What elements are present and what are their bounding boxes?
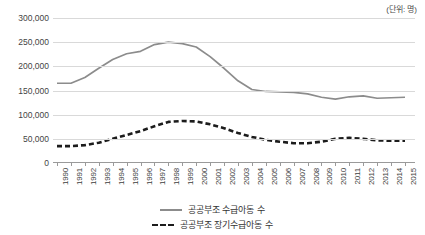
x-axis-labels: 1990199119921993199419951996199719981999… bbox=[53, 168, 415, 196]
x-tick-label: 2012 bbox=[367, 168, 376, 185]
x-tick bbox=[71, 163, 72, 166]
x-tick bbox=[363, 163, 364, 166]
x-tick-label: 1995 bbox=[131, 168, 140, 185]
x-tick-label: 1992 bbox=[89, 168, 98, 185]
y-tick-label: 0 bbox=[44, 158, 49, 168]
x-tick bbox=[224, 163, 225, 166]
x-tick bbox=[141, 163, 142, 166]
x-tick-label: 2009 bbox=[325, 168, 334, 185]
x-tick bbox=[266, 163, 267, 166]
gridline bbox=[53, 66, 415, 67]
x-tick bbox=[154, 163, 155, 166]
chart-container: (단위: 명) 300,000250,000200,000150,000100,… bbox=[0, 0, 425, 235]
x-tick-label: 2005 bbox=[270, 168, 279, 185]
x-tick bbox=[280, 163, 281, 166]
y-tick-label: 150,000 bbox=[18, 86, 49, 96]
x-tick bbox=[127, 163, 128, 166]
x-tick bbox=[391, 163, 392, 166]
x-tick bbox=[113, 163, 114, 166]
unit-annotation: (단위: 명) bbox=[386, 3, 417, 14]
y-tick-label: 50,000 bbox=[23, 134, 49, 144]
legend-item[interactable]: 공공부조 수급아동 수 bbox=[160, 203, 265, 216]
x-tick-label: 1999 bbox=[186, 168, 195, 185]
x-tick-label: 2003 bbox=[242, 168, 251, 185]
x-tick-label: 2001 bbox=[214, 168, 223, 185]
x-tick bbox=[168, 163, 169, 166]
x-tick bbox=[210, 163, 211, 166]
x-tick-label: 1991 bbox=[75, 168, 84, 185]
plot-area bbox=[53, 18, 415, 163]
x-tick bbox=[99, 163, 100, 166]
y-tick-label: 250,000 bbox=[18, 37, 49, 47]
x-axis-ticks bbox=[53, 163, 415, 167]
x-tick bbox=[294, 163, 295, 166]
gridline bbox=[53, 42, 415, 43]
x-tick-label: 1990 bbox=[61, 168, 70, 185]
x-tick-label: 1993 bbox=[103, 168, 112, 185]
x-tick-label: 1996 bbox=[145, 168, 154, 185]
gridline bbox=[53, 115, 415, 116]
x-tick-label: 1997 bbox=[158, 168, 167, 185]
x-tick bbox=[85, 163, 86, 166]
gridline bbox=[53, 91, 415, 92]
x-tick-label: 2004 bbox=[256, 168, 265, 185]
legend-item[interactable]: 공공부조 장기수급아동 수 bbox=[152, 218, 273, 231]
x-tick-label: 2013 bbox=[381, 168, 390, 185]
x-tick-label: 2010 bbox=[339, 168, 348, 185]
legend-label: 공공부조 장기수급아동 수 bbox=[180, 218, 273, 231]
x-tick-label: 1998 bbox=[172, 168, 181, 185]
x-tick-label: 2014 bbox=[395, 168, 404, 185]
x-tick bbox=[57, 163, 58, 166]
x-tick bbox=[196, 163, 197, 166]
x-tick-label: 2015 bbox=[409, 168, 418, 185]
y-tick-label: 200,000 bbox=[18, 61, 49, 71]
x-tick bbox=[308, 163, 309, 166]
x-tick-label: 1994 bbox=[117, 168, 126, 185]
gridline bbox=[53, 139, 415, 140]
x-tick bbox=[252, 163, 253, 166]
legend-swatch-solid bbox=[160, 209, 182, 211]
y-axis-labels: 300,000250,000200,000150,000100,00050,00… bbox=[0, 0, 49, 235]
x-tick-label: 2000 bbox=[200, 168, 209, 185]
x-tick bbox=[377, 163, 378, 166]
x-tick bbox=[349, 163, 350, 166]
x-tick bbox=[405, 163, 406, 166]
x-tick bbox=[238, 163, 239, 166]
x-tick bbox=[182, 163, 183, 166]
legend-swatch-dashed bbox=[152, 224, 174, 226]
x-tick-label: 2006 bbox=[284, 168, 293, 185]
legend: 공공부조 수급아동 수공공부조 장기수급아동 수 bbox=[0, 203, 425, 231]
legend-label: 공공부조 수급아동 수 bbox=[188, 203, 265, 216]
y-tick-label: 300,000 bbox=[18, 13, 49, 23]
x-tick-label: 2002 bbox=[228, 168, 237, 185]
x-tick-label: 2008 bbox=[312, 168, 321, 185]
x-tick-label: 2011 bbox=[353, 168, 362, 184]
y-tick-label: 100,000 bbox=[18, 110, 49, 120]
x-tick bbox=[321, 163, 322, 166]
series-line bbox=[57, 121, 405, 146]
x-tick-label: 2007 bbox=[298, 168, 307, 185]
gridline bbox=[53, 18, 415, 19]
x-tick bbox=[335, 163, 336, 166]
